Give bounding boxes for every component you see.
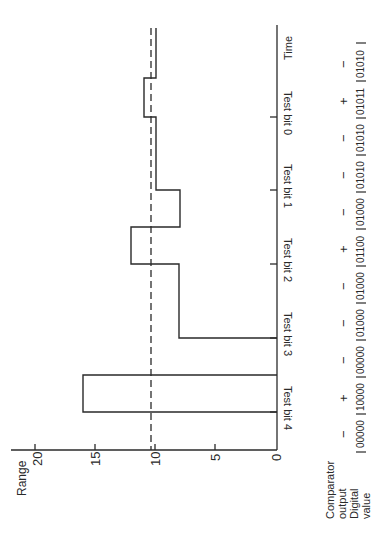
range-axis-label: Range	[15, 460, 29, 496]
tick-label-10: 10	[148, 452, 163, 466]
comparator-outputs: − + − − − + − − − + −	[336, 60, 351, 438]
comparator-output: −	[336, 356, 351, 364]
digital-value: 01011	[355, 87, 366, 115]
digital-value: 01000	[355, 272, 366, 300]
test-bit-3-label: Test bit 3	[282, 312, 294, 356]
comparator-output: −	[336, 282, 351, 290]
comparator-output: −	[336, 60, 351, 68]
sar-adc-range-chart: Range 20 15 10 5 0 Time Test bit 4 Test …	[0, 0, 381, 537]
time-axis	[270, 25, 277, 450]
comparator-output: +	[336, 245, 351, 253]
digital-value-label-2: value	[360, 493, 372, 519]
comparator-output: −	[336, 430, 351, 438]
digital-value: 01010	[355, 161, 366, 189]
comparator-output: −	[336, 319, 351, 327]
time-axis-label: Time	[282, 36, 294, 60]
digital-values: 00000 10000 00000 01000 01000 01100 0100…	[355, 50, 366, 448]
test-bit-2-label: Test bit 2	[282, 238, 294, 282]
test-bit-1-label: Test bit 1	[282, 164, 294, 208]
digital-value: 00000	[355, 346, 366, 374]
step-trace	[83, 28, 277, 412]
digital-value: 01010	[355, 50, 366, 78]
digital-value: 01010	[355, 124, 366, 152]
comparator-output: +	[336, 97, 351, 105]
comparator-output: −	[336, 134, 351, 142]
digital-value-label-1: Digital	[348, 488, 360, 519]
comparator-output: −	[336, 208, 351, 216]
digital-value: 00000	[355, 420, 366, 448]
test-bit-4-label: Test bit 4	[282, 386, 294, 430]
comparator-output-label-1: Comparator	[324, 461, 336, 519]
digital-value: 01000	[355, 198, 366, 226]
tick-label-15: 15	[88, 452, 103, 466]
digital-value: 10000	[355, 383, 366, 411]
digital-value: 01100	[355, 235, 366, 263]
comparator-output: +	[336, 394, 351, 402]
tick-label-20: 20	[30, 452, 45, 466]
test-bit-0-label: Test bit 0	[282, 91, 294, 135]
comparator-output-label-2: output	[336, 488, 348, 519]
tick-label-5: 5	[208, 454, 223, 461]
tick-label-0: 0	[269, 454, 284, 461]
range-axis	[11, 444, 277, 450]
digital-value: 01000	[355, 309, 366, 337]
comparator-output: −	[336, 171, 351, 179]
